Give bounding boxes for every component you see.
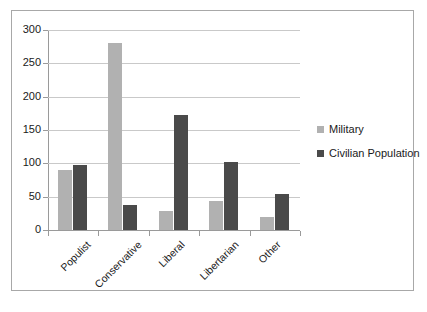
bar-other-military[interactable] bbox=[260, 217, 274, 230]
gridline-0 bbox=[48, 230, 300, 231]
bar-libertarian-civilian[interactable] bbox=[224, 162, 238, 230]
legend-label: Military bbox=[329, 123, 364, 135]
y-axis-labels: 300 250 200 150 100 50 0 bbox=[12, 30, 41, 230]
legend-item-military[interactable]: Military bbox=[317, 123, 427, 135]
bar-libertarian-military[interactable] bbox=[209, 201, 223, 230]
chart-frame: 300 250 200 150 100 50 0 bbox=[11, 10, 414, 291]
legend-swatch-icon bbox=[317, 126, 324, 133]
bar-group-liberal bbox=[149, 30, 199, 230]
bar-group-populist bbox=[48, 30, 98, 230]
bar-populist-military[interactable] bbox=[58, 170, 72, 230]
y-axis-tick-label: 250 bbox=[11, 57, 41, 68]
bar-conservative-military[interactable] bbox=[108, 43, 122, 230]
legend-swatch-icon bbox=[317, 150, 324, 157]
bar-other-civilian[interactable] bbox=[275, 194, 289, 230]
x-axis-tick bbox=[199, 231, 200, 236]
bar-group-libertarian bbox=[199, 30, 249, 230]
bar-populist-civilian[interactable] bbox=[73, 165, 87, 230]
bar-conservative-civilian[interactable] bbox=[123, 205, 137, 230]
bar-group-other bbox=[250, 30, 300, 230]
x-axis-tick bbox=[98, 231, 99, 236]
y-axis-tick-label: 150 bbox=[11, 124, 41, 135]
bar-group-conservative bbox=[98, 30, 148, 230]
chart-legend: Military Civilian Population bbox=[317, 123, 427, 171]
x-axis-tick bbox=[300, 231, 301, 236]
bar-liberal-civilian[interactable] bbox=[174, 115, 188, 230]
y-axis-tick-label: 50 bbox=[11, 191, 41, 202]
y-axis-tick-label: 200 bbox=[11, 91, 41, 102]
x-axis-tick bbox=[149, 231, 150, 236]
x-axis-tick bbox=[250, 231, 251, 236]
legend-item-civilian-population[interactable]: Civilian Population bbox=[317, 147, 427, 159]
y-axis-tick-label: 300 bbox=[11, 24, 41, 35]
legend-label: Civilian Population bbox=[329, 147, 420, 159]
plot-area bbox=[48, 30, 300, 230]
bar-liberal-military[interactable] bbox=[159, 211, 173, 230]
x-axis-tick bbox=[48, 231, 49, 236]
y-axis-tick-label: 0 bbox=[11, 224, 41, 235]
y-axis-tick-label: 100 bbox=[11, 157, 41, 168]
figure-caption bbox=[12, 300, 412, 312]
